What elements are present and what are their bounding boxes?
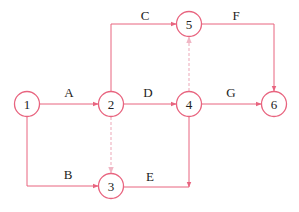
edge-label-a: A	[64, 85, 74, 100]
node-label-3: 3	[108, 179, 115, 194]
node-4: 4	[177, 92, 202, 117]
node-label-5: 5	[186, 17, 193, 32]
node-label-1: 1	[24, 97, 31, 112]
node-2: 2	[99, 92, 124, 117]
edge-b: B	[27, 116, 98, 186]
node-label-6: 6	[271, 97, 278, 112]
node-6: 6	[262, 92, 287, 117]
edge-a: A	[39, 85, 98, 104]
node-label-4: 4	[186, 97, 193, 112]
edge-label-c: C	[141, 8, 150, 23]
edge-label-b: B	[64, 167, 73, 182]
edge-c: C	[111, 8, 176, 92]
node-5: 5	[177, 12, 202, 37]
edge-label-e: E	[146, 169, 154, 184]
edge-label-g: G	[226, 85, 235, 100]
edge-e: E	[124, 117, 189, 187]
edge-label-d: D	[143, 85, 152, 100]
node-label-2: 2	[108, 97, 115, 112]
network-diagram: A B C D E F G 1 2 3	[0, 0, 299, 212]
edge-label-f: F	[232, 8, 239, 23]
node-1: 1	[15, 92, 40, 117]
edge-f: F	[202, 8, 274, 91]
edge-g: G	[202, 85, 261, 104]
edge-d: D	[123, 85, 176, 104]
node-3: 3	[99, 174, 124, 199]
